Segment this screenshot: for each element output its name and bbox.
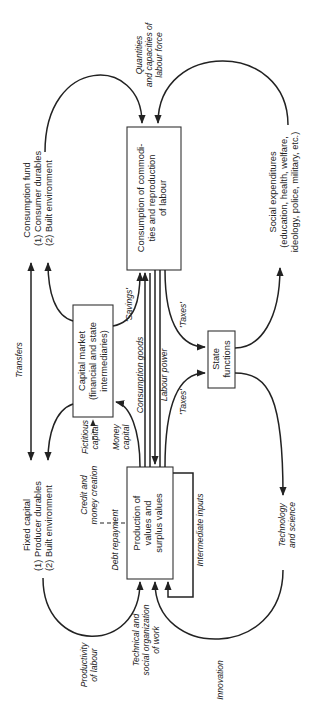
capital-market-label-3: intermediaries) [99,330,109,391]
svg-text:and science: and science [287,502,297,548]
production-label-2: values and [143,501,153,546]
taxes-top-label: 'Taxes' [178,302,188,328]
quantities-labour-arc [158,61,288,125]
technology-label: Technology and science [277,502,297,548]
taxes-bottom-label: 'Taxes' [178,389,188,415]
svg-text:labour force: labour force [154,32,164,78]
svg-text:Fictitious: Fictitious [80,419,90,454]
consumption-label-1: Consumption of commodi- [136,144,146,253]
productivity-arc [43,578,140,636]
taxes-from-production [165,373,205,467]
consumption-label-3: of labour [158,180,168,216]
svg-text:Money: Money [111,423,121,449]
consumption-fund-text: Consumption fund (1) Consumer durables (… [22,151,54,246]
svg-text:ideology, police, military, et: ideology, police, military, etc.) [290,132,300,253]
svg-text:(education, health, welfare,: (education, health, welfare, [279,136,289,248]
svg-text:(1) Producer durables: (1) Producer durables [33,481,43,571]
intermediate-inputs-label: Intermediate inputs [195,493,205,567]
state-label-1: State [211,348,221,370]
fixed-capital-text: Fixed capital (1) Producer durables (2) … [22,481,54,571]
fictitious-capital-label: Fictitious capital [80,419,100,454]
transfers-label: Transfers [14,341,24,377]
debt-repayment-label: Debt repayment [110,509,120,571]
svg-text:capital: capital [121,423,131,449]
savings-label: 'Savings' [124,288,134,322]
svg-text:Technology: Technology [277,502,287,546]
state-label-2: functions [222,340,232,378]
capital-flows-diagram: Consumption of commodi- ties and reprodu… [0,0,329,703]
capital-market-label-1: Capital market [77,331,87,391]
svg-text:Productivity: Productivity [79,642,89,687]
consumption-box: Consumption of commodi- ties and reprodu… [127,127,181,270]
capital-market-to-fixed-capital [48,404,73,460]
innovation-label: Innovation [215,660,225,700]
production-label-1: Production of [132,495,142,550]
svg-text:Quantities: Quantities [134,35,144,74]
state-to-social-expenditures [235,268,280,348]
credit-label: Credit and money creation [79,465,99,524]
svg-text:Credit and: Credit and [79,475,89,515]
money-capital-label: Money capital [111,423,131,449]
svg-text:(1) Consumer durables: (1) Consumer durables [33,151,43,246]
state-functions-box: State functions [208,331,235,388]
svg-text:and capacities of: and capacities of [144,21,154,87]
capital-market-box: Capital market (financial and state inte… [73,305,113,417]
capital-market-label-2: (financial and state [88,322,98,400]
svg-text:Consumption fund: Consumption fund [22,162,32,237]
quantities-label: Quantities and capacities of labour forc… [134,21,164,87]
social-expenditures-text: Social expenditures (education, health, … [268,132,300,253]
svg-text:Technical and: Technical and [131,613,141,666]
svg-text:of labour: of labour [89,647,99,682]
capital-market-to-consumption-fund [48,263,73,321]
consumption-goods-label: Consumption goods [135,336,145,413]
svg-text:Fixed capital: Fixed capital [22,499,32,551]
production-box: Production of values and surplus values [127,467,173,579]
labour-power-label: Labour power [159,348,169,402]
consumption-label-2: ties and reproduction [147,155,157,242]
svg-text:(2) Built environment: (2) Built environment [44,485,54,571]
technical-label: Technical and social organization of wor… [131,604,161,675]
svg-text:capital: capital [90,423,100,449]
svg-text:of work: of work [151,625,161,653]
svg-text:Social expenditures: Social expenditures [268,151,278,232]
productivity-label: Productivity of labour [79,642,99,687]
production-label-3: surplus values [154,493,164,553]
state-to-technology [235,373,283,495]
svg-text:money creation: money creation [89,465,99,524]
innovation-arc [155,570,283,639]
svg-text:social organization: social organization [141,604,151,675]
svg-text:(2) Built environment: (2) Built environment [44,160,54,246]
